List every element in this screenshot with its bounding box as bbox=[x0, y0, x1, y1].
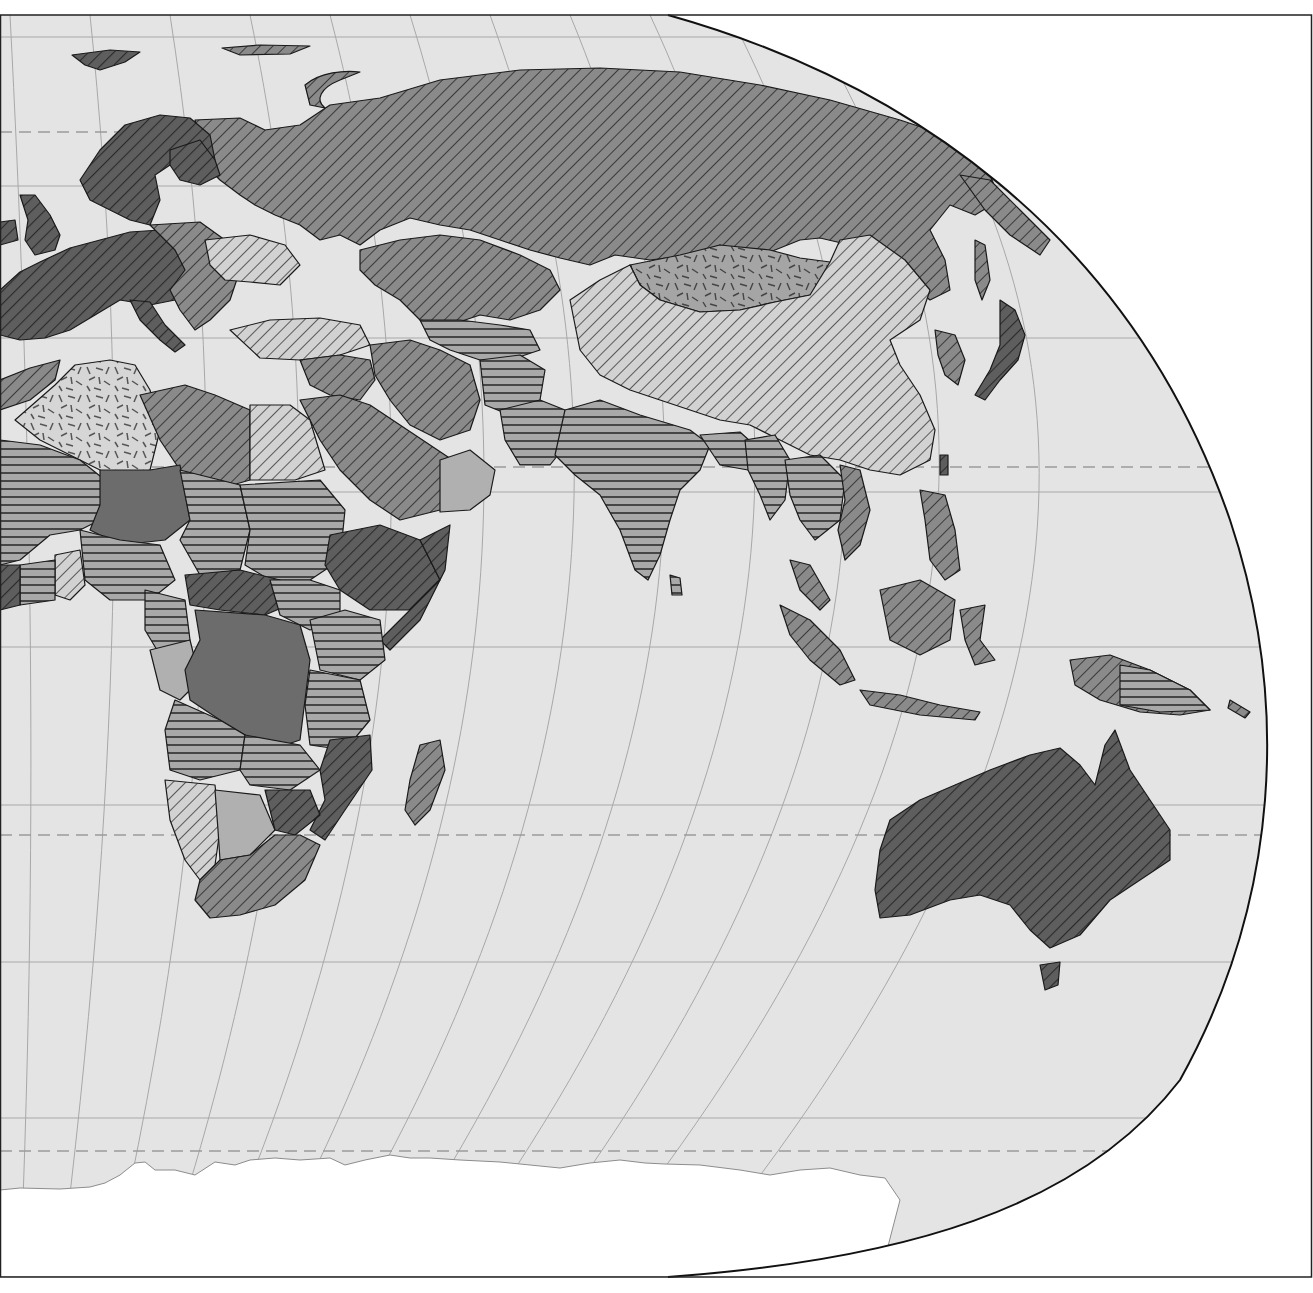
region-west-africa-coast bbox=[0, 565, 20, 610]
region-cote-ivoire bbox=[20, 560, 55, 605]
region-taiwan bbox=[940, 455, 948, 475]
region-sri-lanka bbox=[670, 575, 682, 595]
region-ireland bbox=[0, 220, 18, 245]
map-canvas bbox=[0, 0, 1313, 1293]
region-uganda-kenya bbox=[310, 610, 385, 680]
world-map bbox=[0, 0, 1313, 1293]
region-chad bbox=[180, 470, 250, 575]
